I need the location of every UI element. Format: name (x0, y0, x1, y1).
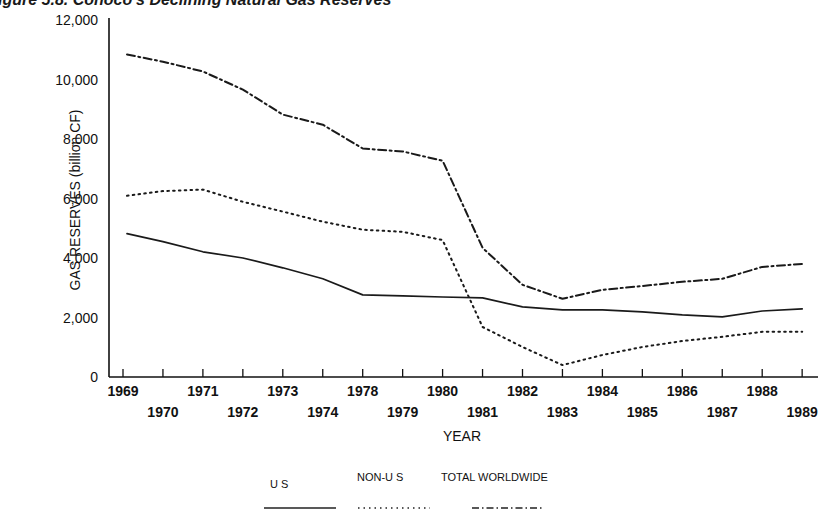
x-axis: 1969197019711972197319741978197919801981… (107, 369, 818, 420)
y-tick-label: 0 (90, 369, 98, 385)
x-tick-label: 1986 (667, 383, 698, 399)
x-tick-label: 1979 (387, 404, 418, 420)
y-tick-label: 10,000 (55, 72, 98, 88)
x-tick-label: 1969 (107, 383, 138, 399)
x-tick-label: 1987 (707, 404, 738, 420)
line-chart: 02,0004,0006,0008,00010,00012,000 196919… (0, 0, 833, 520)
y-tick-label: 12,000 (55, 12, 98, 28)
legend-label-us: U S (270, 478, 288, 490)
series-line-us (127, 234, 802, 317)
x-tick-label: 1983 (547, 404, 578, 420)
series-line-non-us (127, 190, 802, 366)
x-tick-label: 1988 (747, 383, 778, 399)
x-tick-label: 1981 (467, 404, 498, 420)
x-tick-label: 1973 (267, 383, 298, 399)
x-tick-label: 1970 (147, 404, 178, 420)
x-tick-label: 1984 (587, 383, 618, 399)
y-axis-title: GAS RESERVES (billion CF) (67, 109, 83, 290)
series-line-total-worldwide (127, 55, 802, 299)
x-tick-label: 1978 (347, 383, 378, 399)
legend: U S NON-U S TOTAL WORLDWIDE (264, 471, 548, 508)
x-tick-label: 1974 (307, 404, 338, 420)
x-axis-title: YEAR (443, 428, 481, 444)
x-tick-label: 1985 (627, 404, 658, 420)
y-tick-label: 2,000 (63, 310, 98, 326)
legend-label-non-us: NON-U S (357, 471, 403, 483)
x-tick-label: 1980 (427, 383, 458, 399)
x-tick-label: 1972 (227, 404, 258, 420)
x-tick-label: 1971 (187, 383, 218, 399)
x-tick-label: 1989 (787, 404, 818, 420)
legend-label-total: TOTAL WORLDWIDE (441, 471, 548, 483)
chart-series (127, 55, 802, 366)
x-tick-label: 1982 (507, 383, 538, 399)
